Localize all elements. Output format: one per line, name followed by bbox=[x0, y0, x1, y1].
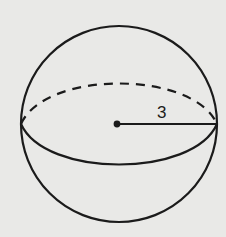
center-point bbox=[114, 121, 121, 128]
sphere-diagram: 3 bbox=[0, 0, 226, 237]
radius-label: 3 bbox=[157, 103, 166, 122]
equator-front-arc bbox=[21, 124, 217, 165]
equator-back-dashed-arc bbox=[21, 84, 217, 125]
